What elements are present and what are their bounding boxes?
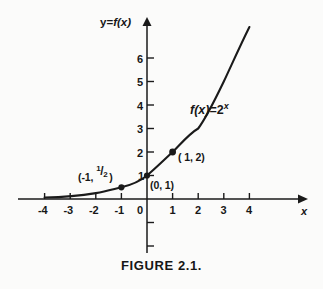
plot-svg	[0, 0, 323, 289]
data-point-0-1	[144, 172, 150, 178]
fraction-denominator: 2	[103, 171, 107, 179]
curve-label-exponent: x	[224, 101, 229, 111]
point-label-neg1-half-open: (-1,	[78, 171, 96, 183]
x-tick-label-3: 3	[221, 205, 227, 216]
curve-equation-label: f(x)=2x	[190, 104, 229, 117]
figure-caption: FIGURE 2.1.	[0, 258, 323, 273]
fraction-one-half: 1/2	[96, 169, 109, 181]
y-tick-label-5: 5	[137, 77, 143, 88]
y-tick-label-1: 1	[138, 171, 144, 182]
x-tick-label-0: 0	[137, 205, 143, 216]
x-tick-label-neg4: -4	[38, 205, 47, 216]
figure-container: y=f(x) x -4 -3 -2 -1 0 1 2 3 4 1 2 3 4 5…	[0, 0, 323, 289]
y-tick-label-4: 4	[137, 101, 143, 112]
y-axis-arrowhead	[143, 17, 152, 26]
x-tick-label-neg2: -2	[89, 205, 98, 216]
y-tick-label-2: 2	[137, 148, 143, 159]
x-tick-label-neg3: -3	[64, 205, 73, 216]
y-tick-label-3: 3	[137, 124, 143, 135]
y-axis-title-prefix: y=	[100, 16, 113, 28]
point-label-1-2: ( 1, 2)	[178, 152, 205, 163]
y-axis-title-func: f(x)	[113, 16, 131, 28]
x-tick-label-1: 1	[170, 205, 176, 216]
x-tick-label-2: 2	[195, 205, 201, 216]
x-axis-arrowhead	[298, 195, 308, 204]
data-point-neg1-half	[118, 184, 124, 190]
curve-label-func: f(x)	[190, 103, 209, 117]
x-tick-label-neg1: -1	[115, 205, 124, 216]
x-axis-name: x	[301, 206, 307, 217]
y-axis-ticks	[147, 58, 154, 246]
point-label-0-1: (0, 1)	[150, 180, 174, 191]
point-label-neg1-half-close: )	[109, 171, 112, 183]
data-point-1-2	[169, 149, 176, 156]
curve-label-equals: =2	[209, 103, 223, 117]
y-axis-title: y=f(x)	[100, 17, 131, 29]
x-tick-label-4: 4	[246, 205, 252, 216]
point-label-neg1-half: (-1, 1/2)	[78, 169, 113, 183]
y-tick-label-6: 6	[137, 54, 143, 65]
